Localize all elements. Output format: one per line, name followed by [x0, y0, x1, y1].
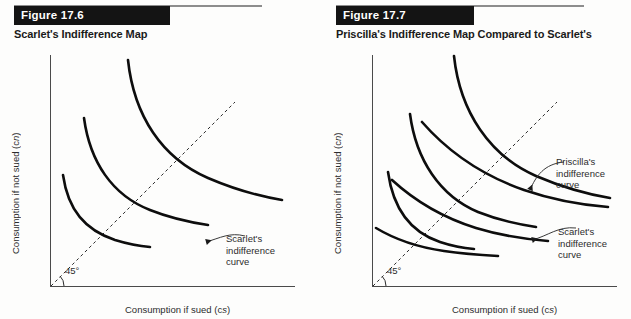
y-axis-label-subscript: n: [10, 136, 21, 141]
y-axis-label-paren: ): [10, 133, 21, 136]
figure-17-6: Figure 17.6 Scarlet's Indifference Map C…: [8, 0, 308, 319]
annotation-line-1: Priscilla's: [556, 156, 605, 168]
plot-area: Consumption if not sued (cn) Consumption…: [30, 50, 298, 290]
y-axis-label-text: Consumption if not sued (c: [332, 141, 343, 254]
forty-five-degree-line: [373, 102, 557, 286]
figure-17-7: Figure 17.7 Priscilla's Indifference Map…: [330, 0, 630, 319]
annotation-line-3: curve: [226, 256, 275, 268]
forty-five-degree-label: 45°: [387, 265, 401, 276]
y-axis-label-text: Consumption if not sued (c: [10, 141, 21, 254]
scarlet-curve-annotation: Scarlet's indifference curve: [226, 233, 275, 268]
angle-arc-icon: [60, 276, 64, 286]
y-axis-label-subscript: n: [332, 136, 343, 141]
x-axis-label-paren: ): [554, 304, 557, 315]
x-axis-label-text: Consumption if sued (c: [452, 304, 549, 315]
scarlet-indifference-curve-1: [63, 175, 150, 247]
annotation-line-2: indifference: [556, 168, 605, 180]
annotation-line-1: Scarlet's: [558, 226, 607, 238]
x-axis-label-text: Consumption if sued (c: [125, 304, 222, 315]
y-axis-label: Consumption if not sued (cn): [10, 54, 21, 254]
figure-number-badge: Figure 17.6: [14, 6, 170, 25]
scarlet-curve-annotation: Scarlet's indifference curve: [558, 226, 607, 261]
x-axis-label: Consumption if sued (cs): [125, 304, 230, 315]
scarlet-indifference-curve-2: [84, 118, 208, 225]
figure-title: Priscilla's Indifference Map Compared to…: [336, 28, 592, 40]
annotation-line-3: curve: [556, 179, 605, 191]
forty-five-degree-label: 45°: [65, 265, 79, 276]
priscilla-curve-annotation: Priscilla's indifference curve: [556, 156, 605, 191]
x-axis-label: Consumption if sued (cs): [452, 304, 557, 315]
scarlet-indifference-curve-3: [128, 60, 282, 200]
x-axis-label-paren: ): [227, 304, 230, 315]
annotation-line-1: Scarlet's: [226, 233, 275, 245]
y-axis-label-paren: ): [332, 133, 343, 136]
figure-title: Scarlet's Indifference Map: [14, 28, 147, 40]
figure-number-badge: Figure 17.7: [336, 6, 474, 25]
annotation-line-2: indifference: [558, 238, 607, 250]
forty-five-degree-line: [51, 102, 235, 286]
plot-area: Consumption if not sued (cn) Consumption…: [352, 50, 620, 290]
angle-arc-icon: [382, 276, 386, 286]
annotation-line-2: indifference: [226, 245, 275, 257]
y-axis-label: Consumption if not sued (cn): [332, 54, 343, 254]
annotation-line-3: curve: [558, 249, 607, 261]
scarlet-indifference-curve-1: [388, 172, 474, 249]
